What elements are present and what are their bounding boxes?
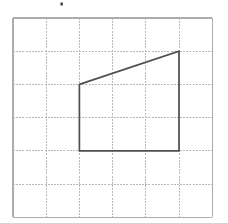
figure-canvas (0, 0, 228, 223)
quadrilateral-shape (79, 51, 179, 151)
grid-figure-svg (0, 0, 228, 223)
scan-speck-mark (61, 3, 63, 6)
